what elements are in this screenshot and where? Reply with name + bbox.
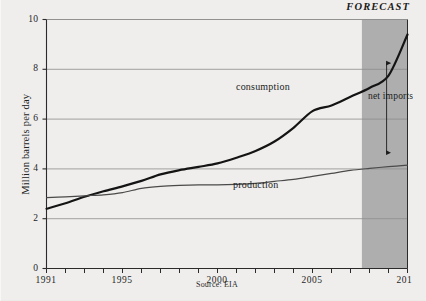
y-axis-title: Million barrels per day (21, 64, 32, 224)
data-series (47, 34, 408, 208)
x-tick-label: 201 (397, 276, 413, 286)
forecast-shaded-region (362, 20, 408, 269)
gridlines (47, 20, 408, 219)
chart-figure: Million barrels per day 0246810 19911995… (0, 0, 426, 301)
source-note: Source: EIA (196, 281, 238, 289)
forecast-label: FORECAST (346, 2, 410, 13)
y-tick-label: 2 (17, 214, 39, 224)
y-tick-label: 6 (17, 114, 39, 124)
axis-ticks (43, 20, 408, 274)
y-tick-label: 8 (17, 64, 39, 74)
y-tick-label: 0 (17, 264, 39, 274)
axis-lines (47, 20, 408, 269)
x-tick-label: 1995 (112, 276, 133, 286)
x-tick-label: 2005 (302, 276, 323, 286)
x-tick-label: 1991 (36, 276, 57, 286)
production-series-label: production (233, 180, 278, 190)
chart-plot-svg (0, 0, 426, 301)
consumption-series-label: consumption (236, 82, 290, 92)
y-tick-label: 10 (17, 15, 39, 25)
net-imports-label: net imports (368, 91, 412, 103)
y-tick-label: 4 (17, 164, 39, 174)
